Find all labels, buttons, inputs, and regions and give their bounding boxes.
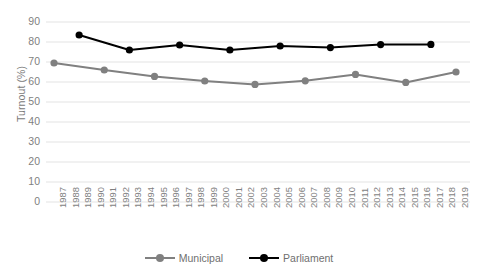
x-tick-label: 2009 [334, 187, 343, 208]
legend-item-municipal[interactable]: Municipal [145, 252, 223, 264]
legend-swatch-parliament [249, 253, 279, 263]
x-tick-label: 1998 [196, 187, 205, 208]
x-tick-label: 2018 [447, 187, 456, 208]
data-point-municipal[interactable] [50, 59, 57, 66]
x-tick-label: 2015 [410, 187, 419, 208]
x-tick-label: 2001 [234, 187, 243, 208]
x-tick-label: 1988 [71, 187, 80, 208]
data-point-parliament[interactable] [277, 42, 284, 49]
x-tick-label: 1990 [96, 187, 105, 208]
data-point-parliament[interactable] [126, 46, 133, 53]
x-tick-label: 2003 [259, 187, 268, 208]
x-tick-label: 2010 [347, 187, 356, 208]
chart-legend: Municipal Parliament [0, 252, 478, 264]
data-point-municipal[interactable] [151, 73, 158, 80]
x-tick-label: 2011 [360, 188, 369, 208]
x-tick-label: 1992 [121, 187, 130, 208]
x-tick-label: 2007 [309, 187, 318, 208]
legend-swatch-municipal [145, 253, 175, 263]
x-tick-label: 2016 [422, 187, 431, 208]
data-point-municipal[interactable] [251, 81, 258, 88]
data-point-municipal[interactable] [101, 66, 108, 73]
x-tick-label: 1989 [83, 187, 92, 208]
x-tick-label: 1996 [171, 187, 180, 208]
x-tick-label: 1997 [184, 187, 193, 208]
data-point-parliament[interactable] [76, 31, 83, 38]
x-tick-label: 2017 [435, 187, 444, 208]
data-point-parliament[interactable] [327, 44, 334, 51]
data-point-parliament[interactable] [427, 41, 434, 48]
x-tick-label: 2008 [322, 187, 331, 208]
data-point-municipal[interactable] [452, 68, 459, 75]
x-tick-label: 2002 [246, 187, 255, 208]
x-tick-label: 2004 [272, 187, 281, 208]
x-tick-label: 2019 [460, 187, 469, 208]
data-point-municipal[interactable] [402, 79, 409, 86]
data-point-municipal[interactable] [302, 77, 309, 84]
plot-area [0, 0, 478, 279]
legend-label-municipal: Municipal [179, 252, 223, 264]
x-tick-label: 2012 [372, 187, 381, 208]
x-tick-label: 1995 [159, 187, 168, 208]
x-tick-label: 2013 [385, 187, 394, 208]
x-tick-label: 2014 [397, 187, 406, 208]
data-point-municipal[interactable] [201, 77, 208, 84]
x-tick-label: 2005 [284, 187, 293, 208]
x-tick-label: 1991 [108, 187, 117, 208]
legend-item-parliament[interactable]: Parliament [249, 252, 333, 264]
data-point-municipal[interactable] [352, 71, 359, 78]
data-point-parliament[interactable] [176, 41, 183, 48]
turnout-line-chart: Turnout (%) 9080706050403020100 19871988… [0, 0, 478, 279]
x-tick-label: 1999 [209, 187, 218, 208]
data-point-parliament[interactable] [226, 46, 233, 53]
data-point-parliament[interactable] [377, 41, 384, 48]
x-tick-label: 1994 [146, 187, 155, 208]
x-tick-label: 2006 [297, 187, 306, 208]
x-tick-label: 1993 [133, 187, 142, 208]
legend-label-parliament: Parliament [283, 252, 333, 264]
x-tick-label: 1987 [58, 187, 67, 208]
x-tick-label: 2000 [221, 187, 230, 208]
